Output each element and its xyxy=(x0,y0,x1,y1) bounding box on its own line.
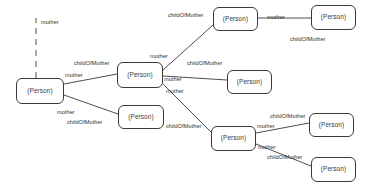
edge-label-mother: mother xyxy=(41,20,59,26)
diagram-canvas: (Person)(Person)(Person)(Person)(Person)… xyxy=(0,0,379,194)
edge-label-childofmother: childOfMother xyxy=(67,120,102,126)
edge-label-mother: mother xyxy=(65,73,83,79)
edge-label-childofmother: childOfMother xyxy=(270,114,305,120)
edge-label-childofmother: childOfMother xyxy=(74,61,109,67)
person-node[interactable]: (Person) xyxy=(311,157,356,182)
person-node[interactable]: (Person) xyxy=(211,126,256,151)
person-node[interactable]: (Person) xyxy=(213,7,258,31)
edge-label-mother: mother xyxy=(267,15,285,21)
edge-label-mother: mother xyxy=(150,54,168,60)
edge-label-childofmother: childOfMother xyxy=(290,37,325,43)
edge-label-mother: mother xyxy=(257,124,275,130)
person-node[interactable]: (Person) xyxy=(309,113,354,137)
person-node[interactable]: (Person) xyxy=(311,5,356,30)
edge-label-childofmother: childOfMother xyxy=(166,124,201,130)
person-node[interactable]: (Person) xyxy=(227,70,272,94)
edge-label-mother: mother xyxy=(164,77,182,83)
person-node[interactable]: (Person) xyxy=(16,78,64,104)
edge-label-mother: mother xyxy=(258,145,276,151)
edge-label-mother: mother xyxy=(57,110,75,116)
edge-label-mother: mother xyxy=(166,89,184,95)
person-node[interactable]: (Person) xyxy=(117,62,163,88)
edge-label-childofmother: childOfMother xyxy=(168,13,203,19)
person-node[interactable]: (Person) xyxy=(118,105,164,129)
edge-label-childofmother: childOfMother xyxy=(187,61,222,67)
edge-label-childofmother: childOfMother xyxy=(267,155,302,161)
